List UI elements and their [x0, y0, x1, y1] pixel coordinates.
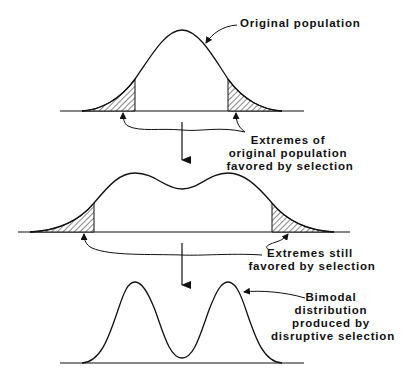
- leader-extremes-original-right: [236, 113, 245, 132]
- disruptive-selection-diagram: Original population Extremes of original…: [0, 0, 404, 379]
- leader-extremes-original-left: [123, 113, 245, 132]
- original-population-curve-group: [60, 30, 304, 111]
- leader-bimodal: [244, 291, 305, 298]
- intermediate-curve-group: [18, 173, 350, 232]
- bimodal-curve-group: [60, 282, 304, 363]
- bimodal-curve: [82, 282, 282, 363]
- label-extremes-original: Extremes of original population favored …: [226, 134, 353, 172]
- right-tail-shade-1: [228, 79, 282, 111]
- right-tail-shade-2: [272, 203, 334, 232]
- left-tail-shade-1: [82, 79, 135, 111]
- normal-curve: [82, 30, 282, 111]
- left-tail-shade-2: [30, 203, 94, 232]
- label-bimodal: Bimodal distribution produced by disrupt…: [271, 291, 395, 342]
- label-original-population: Original population: [240, 17, 361, 29]
- label-extremes-still: Extremes still favored by selection: [248, 247, 375, 272]
- leader-extremes-still-left: [84, 234, 262, 255]
- leader-original-population: [206, 25, 237, 43]
